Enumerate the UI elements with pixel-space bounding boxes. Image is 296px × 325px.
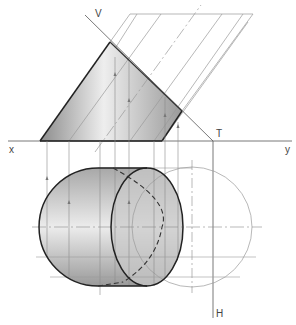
label-y: y (285, 144, 290, 155)
label-h: H (216, 308, 223, 319)
projection-drawing (0, 0, 296, 325)
label-x: x (9, 144, 14, 155)
label-t: T (216, 128, 222, 139)
label-v: V (95, 8, 102, 19)
front-view-solid (40, 42, 182, 141)
